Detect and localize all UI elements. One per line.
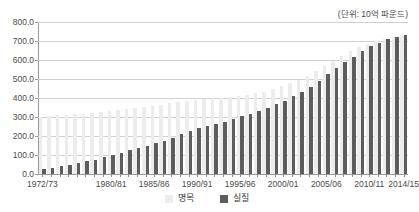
bar-group[interactable] bbox=[383, 22, 390, 174]
bar-group[interactable] bbox=[39, 22, 46, 174]
bar-group[interactable] bbox=[366, 22, 373, 174]
bar-group[interactable] bbox=[73, 22, 80, 174]
bar-group[interactable] bbox=[211, 22, 218, 174]
legend-item-real[interactable]: 실질 bbox=[220, 194, 249, 203]
y-axis-tick-label: 200.0 bbox=[0, 132, 34, 141]
x-axis-tick-mark bbox=[292, 174, 293, 177]
x-axis-tick-mark bbox=[51, 174, 52, 177]
x-axis-tick-mark bbox=[386, 174, 387, 177]
x-axis-tick-mark bbox=[189, 174, 190, 177]
bar-group[interactable] bbox=[159, 22, 166, 174]
bar-group[interactable] bbox=[116, 22, 123, 174]
x-axis-tick-mark bbox=[326, 174, 327, 177]
bar-group[interactable] bbox=[237, 22, 244, 174]
bar-real bbox=[223, 122, 227, 174]
x-axis-tick-mark bbox=[94, 174, 95, 177]
bar-real bbox=[249, 114, 253, 174]
bar-nominal bbox=[47, 116, 51, 174]
bar-group[interactable] bbox=[185, 22, 192, 174]
bar-real bbox=[283, 101, 287, 174]
bar-group[interactable] bbox=[400, 22, 407, 174]
bar-group[interactable] bbox=[194, 22, 201, 174]
x-axis-tick-mark bbox=[103, 174, 104, 177]
bar-group[interactable] bbox=[245, 22, 252, 174]
bar-group[interactable] bbox=[142, 22, 149, 174]
bar-group[interactable] bbox=[323, 22, 330, 174]
bar-real bbox=[275, 104, 279, 174]
bar-group[interactable] bbox=[133, 22, 140, 174]
legend-label-nominal: 명목 bbox=[178, 194, 194, 203]
x-axis-tick-mark bbox=[369, 174, 370, 177]
legend-item-nominal[interactable]: 명목 bbox=[165, 194, 194, 203]
bar-real bbox=[171, 138, 175, 174]
bar-real bbox=[300, 92, 304, 174]
bar-group[interactable] bbox=[340, 22, 347, 174]
bar-group[interactable] bbox=[228, 22, 235, 174]
bar-group[interactable] bbox=[202, 22, 209, 174]
x-axis-tick-mark bbox=[395, 174, 396, 177]
bar-real bbox=[257, 111, 261, 174]
bar-real bbox=[197, 128, 201, 174]
bar-group[interactable] bbox=[82, 22, 89, 174]
bar-group[interactable] bbox=[176, 22, 183, 174]
x-axis-tick-mark bbox=[249, 174, 250, 177]
bar-real bbox=[214, 124, 218, 174]
y-axis-tick-label: 300.0 bbox=[0, 113, 34, 122]
y-axis-tick-label: 500.0 bbox=[0, 75, 34, 84]
y-axis-tick-label: 100.0 bbox=[0, 151, 34, 160]
x-axis-tick-mark bbox=[404, 174, 405, 177]
bar-group[interactable] bbox=[56, 22, 63, 174]
x-axis-tick-mark bbox=[206, 174, 207, 177]
bar-real bbox=[378, 43, 382, 174]
x-axis-tick-mark bbox=[266, 174, 267, 177]
bar-real bbox=[120, 153, 124, 174]
bar-real bbox=[369, 46, 373, 174]
bar-group[interactable] bbox=[99, 22, 106, 174]
bar-group[interactable] bbox=[288, 22, 295, 174]
bar-group[interactable] bbox=[271, 22, 278, 174]
x-axis-tick-mark bbox=[163, 174, 164, 177]
x-axis-tick-mark bbox=[232, 174, 233, 177]
y-axis-tick-label: 700.0 bbox=[0, 37, 34, 46]
y-axis-tick-label: 800.0 bbox=[0, 18, 34, 27]
x-axis-tick-mark bbox=[361, 174, 362, 177]
bar-group[interactable] bbox=[168, 22, 175, 174]
bar-group[interactable] bbox=[90, 22, 97, 174]
bar-group[interactable] bbox=[108, 22, 115, 174]
bar-group[interactable] bbox=[254, 22, 261, 174]
x-axis-tick-label: 2014/15 bbox=[388, 179, 419, 189]
bar-group[interactable] bbox=[65, 22, 72, 174]
x-axis-tick-mark bbox=[137, 174, 138, 177]
x-axis-tick-mark bbox=[128, 174, 129, 177]
bar-group[interactable] bbox=[357, 22, 364, 174]
bar-series-container bbox=[38, 22, 408, 174]
x-axis-tick-mark bbox=[257, 174, 258, 177]
bar-group[interactable] bbox=[219, 22, 226, 174]
bar-group[interactable] bbox=[349, 22, 356, 174]
bar-group[interactable] bbox=[392, 22, 399, 174]
x-axis-tick-mark bbox=[42, 174, 43, 177]
bar-group[interactable] bbox=[125, 22, 132, 174]
bar-real bbox=[240, 116, 244, 174]
bar-group[interactable] bbox=[151, 22, 158, 174]
x-axis-tick-mark bbox=[197, 174, 198, 177]
bar-real bbox=[232, 119, 236, 174]
bar-group[interactable] bbox=[314, 22, 321, 174]
bar-real bbox=[326, 74, 330, 174]
x-axis-tick-mark bbox=[120, 174, 121, 177]
bar-real bbox=[292, 96, 296, 174]
bar-group[interactable] bbox=[374, 22, 381, 174]
x-axis-tick-mark bbox=[343, 174, 344, 177]
x-axis-tick-mark bbox=[223, 174, 224, 177]
bar-group[interactable] bbox=[47, 22, 54, 174]
bar-group[interactable] bbox=[262, 22, 269, 174]
bar-group[interactable] bbox=[297, 22, 304, 174]
x-axis-tick-mark bbox=[275, 174, 276, 177]
bar-real bbox=[404, 35, 408, 174]
x-axis-tick-mark bbox=[240, 174, 241, 177]
bar-group[interactable] bbox=[306, 22, 313, 174]
bar-group[interactable] bbox=[280, 22, 287, 174]
bar-group[interactable] bbox=[331, 22, 338, 174]
x-axis-tick-label: 1972/73 bbox=[27, 179, 58, 189]
bar-real bbox=[343, 62, 347, 174]
